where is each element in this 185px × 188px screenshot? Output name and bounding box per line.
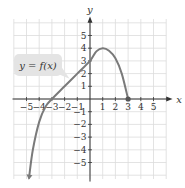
x-tick-label: −2 <box>58 102 71 112</box>
y-tick-label: 4 <box>81 43 87 53</box>
x-axis-label: x <box>176 94 182 105</box>
x-tick-label: 5 <box>151 102 157 112</box>
curve-arrow-icon <box>26 174 32 179</box>
y-tick-label: 5 <box>81 31 87 41</box>
x-tick-label: 2 <box>113 102 119 112</box>
y-axis-arrow-icon <box>88 16 93 22</box>
y-tick-label: −5 <box>73 158 87 168</box>
y-tick-label: −4 <box>73 145 87 155</box>
y-tick-label: −3 <box>73 132 87 142</box>
x-tick-label: 3 <box>125 102 131 112</box>
curve-endpoint-dot <box>126 96 131 101</box>
y-axis-label: y <box>86 4 93 15</box>
y-tick-label: −2 <box>73 119 86 129</box>
x-tick-label: 4 <box>138 102 144 112</box>
function-graph: xy−5−4−3−2−11234554321−1−2−3−4−5 <box>0 0 185 188</box>
x-axis-arrow-icon <box>166 97 172 102</box>
y-tick-label: −1 <box>73 107 86 117</box>
x-tick-label: 1 <box>100 102 106 112</box>
chart-container: xy−5−4−3−2−11234554321−1−2−3−4−5 y = f(x… <box>0 0 185 188</box>
y-tick-label: 1 <box>81 81 87 91</box>
function-label: y = f(x) <box>14 54 62 76</box>
x-tick-label: −5 <box>20 102 34 112</box>
